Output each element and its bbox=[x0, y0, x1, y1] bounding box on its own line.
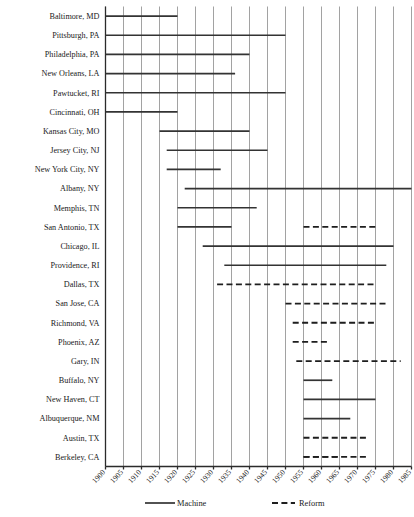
category-label-cincinnati-oh: Cincinnati, OH bbox=[49, 108, 99, 117]
x-tick-label-1915: 1915 bbox=[144, 468, 161, 485]
category-label-buffalo-ny: Buffalo, NY bbox=[59, 376, 100, 385]
x-tick-label-1965: 1965 bbox=[324, 468, 341, 485]
x-tick-label-1940: 1940 bbox=[234, 468, 251, 485]
gantt-chart-svg: Baltimore, MDPittsburgh, PAPhiladelphia,… bbox=[0, 0, 414, 517]
x-tick-label-1945: 1945 bbox=[252, 468, 269, 485]
x-tick-label-1970: 1970 bbox=[342, 468, 359, 485]
category-labels: Baltimore, MDPittsburgh, PAPhiladelphia,… bbox=[35, 12, 101, 462]
x-tick-label-1930: 1930 bbox=[198, 468, 215, 485]
bars bbox=[106, 16, 412, 457]
category-label-san-antonio-tx: San Antonio, TX bbox=[44, 223, 100, 232]
category-label-dallas-tx: Dallas, TX bbox=[64, 280, 100, 289]
x-tick-label-1900: 1900 bbox=[90, 468, 107, 485]
category-label-richmond-va: Richmond, VA bbox=[51, 319, 100, 328]
x-tick-label-1935: 1935 bbox=[216, 468, 233, 485]
category-label-albany-ny: Albany, NY bbox=[60, 184, 100, 193]
legend: MachineReform bbox=[145, 499, 325, 508]
x-axis-ticks: 1900190519101915192019251930193519401945… bbox=[90, 467, 413, 486]
category-label-philadelphia-pa: Philadelphia, PA bbox=[45, 50, 100, 59]
category-label-pittsburgh-pa: Pittsburgh, PA bbox=[52, 31, 99, 40]
x-tick-label-1920: 1920 bbox=[162, 468, 179, 485]
category-label-san-jose-ca: San Jose, CA bbox=[56, 299, 100, 308]
category-label-pawtucket-ri: Pawtucket, RI bbox=[53, 89, 100, 98]
x-tick-label-1960: 1960 bbox=[306, 468, 323, 485]
category-label-austin-tx: Austin, TX bbox=[63, 434, 100, 443]
category-label-gary-in: Gary, IN bbox=[71, 357, 100, 366]
category-label-new-york-city-ny: New York City, NY bbox=[35, 165, 100, 174]
category-label-new-haven-ct: New Haven, CT bbox=[46, 395, 99, 404]
category-label-baltimore-md: Baltimore, MD bbox=[49, 12, 99, 21]
legend-label-reform: Reform bbox=[299, 499, 325, 508]
category-label-berkeley-ca: Berkeley, CA bbox=[55, 453, 100, 462]
gridlines bbox=[106, 7, 412, 467]
category-label-phoenix-az: Phoenix, AZ bbox=[58, 338, 99, 347]
x-tick-label-1985: 1985 bbox=[396, 468, 413, 485]
gantt-chart: Baltimore, MDPittsburgh, PAPhiladelphia,… bbox=[0, 0, 414, 517]
x-tick-label-1975: 1975 bbox=[360, 468, 377, 485]
x-tick-label-1955: 1955 bbox=[288, 468, 305, 485]
category-label-chicago-il: Chicago, IL bbox=[60, 242, 99, 251]
x-tick-label-1910: 1910 bbox=[126, 468, 143, 485]
legend-label-machine: Machine bbox=[177, 499, 207, 508]
category-label-memphis-tn: Memphis, TN bbox=[54, 204, 100, 213]
category-label-providence-ri: Providence, RI bbox=[50, 261, 99, 270]
x-tick-label-1980: 1980 bbox=[378, 468, 395, 485]
axes bbox=[106, 7, 412, 467]
category-label-jersey-city-nj: Jersey City, NJ bbox=[50, 146, 100, 155]
category-label-new-orleans-la: New Orleans, LA bbox=[42, 69, 100, 78]
x-tick-label-1925: 1925 bbox=[180, 468, 197, 485]
category-label-albuquerque-nm: Albuquerque, NM bbox=[39, 414, 100, 423]
x-tick-label-1905: 1905 bbox=[108, 468, 125, 485]
category-label-kansas-city-mo: Kansas City, MO bbox=[43, 127, 100, 136]
x-tick-label-1950: 1950 bbox=[270, 468, 287, 485]
